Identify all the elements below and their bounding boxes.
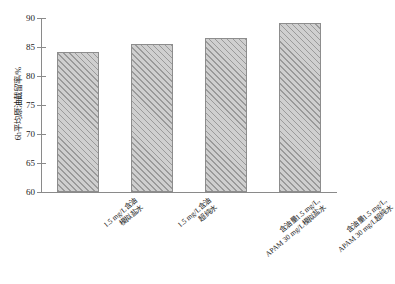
y-axis-tick-inner bbox=[42, 192, 46, 193]
y-axis-tick-label: 80 bbox=[26, 72, 35, 81]
y-axis-tick-inner bbox=[42, 47, 46, 48]
x-axis-tick-label: 含油量1.5 mg/L,APAM 30 mg/L超纯水 bbox=[330, 196, 395, 254]
y-axis-title: 6h平均原油截留率/% bbox=[12, 11, 26, 196]
bar bbox=[131, 44, 173, 192]
y-axis-tick-inner bbox=[42, 18, 46, 19]
bar bbox=[279, 23, 321, 192]
y-axis-tick-inner bbox=[42, 76, 46, 77]
y-axis-tick-label: 90 bbox=[26, 14, 35, 23]
y-axis-tick-inner bbox=[42, 134, 46, 135]
y-axis-tick-label: 75 bbox=[26, 101, 35, 110]
y-axis-tick-inner bbox=[42, 163, 46, 164]
x-axis-line bbox=[41, 192, 337, 193]
y-axis-tick-label: 65 bbox=[26, 159, 35, 168]
y-axis-tick-label: 85 bbox=[26, 43, 35, 52]
y-axis-tick-inner bbox=[42, 105, 46, 106]
bar bbox=[57, 52, 99, 192]
bar bbox=[205, 38, 247, 192]
y-axis-tick-label: 60 bbox=[26, 188, 35, 197]
y-axis-tick-label: 70 bbox=[26, 130, 35, 139]
x-axis-tick-label-line: 含油量1.5 mg/L, bbox=[258, 196, 322, 252]
x-axis-tick-label: 1.5 mg/L含油模拟盐水 bbox=[102, 196, 145, 237]
x-axis-tick-label: 含油量1.5 mg/L,APAM 30 mg/L模拟盐水 bbox=[258, 196, 328, 259]
x-axis-tick-label: 1.5 mg/L含油超纯水 bbox=[176, 196, 219, 237]
plot-area: 60657075808590 bbox=[41, 18, 337, 193]
